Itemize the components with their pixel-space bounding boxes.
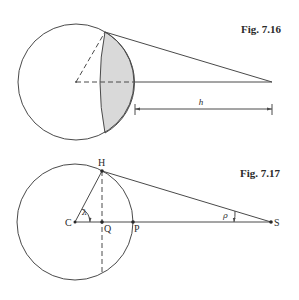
lambda-arrow bbox=[89, 218, 92, 223]
figure-caption-7-16: Fig. 7.16 bbox=[241, 23, 282, 35]
label-H: H bbox=[98, 157, 105, 168]
figure-7-16: h Fig. 7.16 bbox=[18, 23, 282, 140]
point-H bbox=[100, 169, 104, 173]
point-C bbox=[74, 221, 77, 224]
h-arrow-right bbox=[267, 108, 272, 111]
rho-label: ρ bbox=[222, 211, 228, 220]
lambda-label: λ bbox=[81, 208, 87, 217]
diagram-canvas: h Fig. 7.16 λ ρ H C Q P S Fig. 7.17 bbox=[0, 0, 299, 300]
figure-caption-7-17: Fig. 7.17 bbox=[240, 167, 281, 179]
point-S bbox=[269, 220, 273, 224]
label-C: C bbox=[65, 217, 72, 228]
figure-7-17: λ ρ H C Q P S Fig. 7.17 bbox=[17, 157, 281, 280]
h-label: h bbox=[199, 97, 204, 107]
h-arrow-left bbox=[135, 108, 140, 111]
label-Q: Q bbox=[104, 223, 112, 234]
rho-arrow bbox=[233, 218, 236, 222]
center-point bbox=[75, 81, 77, 83]
label-S: S bbox=[274, 217, 280, 228]
label-P: P bbox=[134, 223, 140, 234]
